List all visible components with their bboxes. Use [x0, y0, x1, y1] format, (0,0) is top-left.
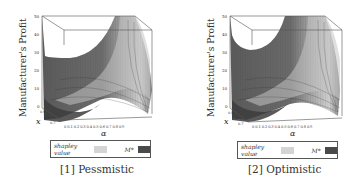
svg-text:50: 50: [222, 14, 228, 19]
svg-text:0.9: 0.9: [40, 110, 46, 114]
legend: shapley value M*: [237, 141, 338, 159]
svg-text:0.8: 0.8: [44, 116, 50, 120]
svg-text:10: 10: [222, 86, 228, 91]
panel-caption: [2] Optimistic: [248, 163, 321, 175]
svg-text:40: 40: [222, 32, 228, 37]
chart-panel-pessimistic: 50 40 30 20 10 0 0.9 0.8 0.7 x 0 0.1 0.2…: [0, 0, 178, 191]
legend-swatch-shapley: [281, 147, 293, 154]
svg-text:0 0.1 0.2 0.3 0.4 0.5 0.6 0.7: 0 0.1 0.2 0.3 0.4 0.5 0.6 0.7 0.8 0.9: [64, 125, 125, 129]
chart-panel-optimistic: 50 40 30 20 10 0 0.9 0.8 0.7 x 0 0.1 0.2…: [180, 0, 355, 191]
svg-text:α: α: [101, 129, 107, 138]
svg-text:0.9: 0.9: [228, 111, 234, 115]
svg-text:10: 10: [34, 86, 40, 91]
svg-text:α: α: [290, 129, 296, 138]
svg-text:0: 0: [225, 104, 228, 109]
legend-label-mstar: M*: [125, 146, 134, 153]
svg-text:0: 0: [37, 104, 40, 109]
svg-text:x: x: [224, 117, 229, 126]
svg-text:40: 40: [34, 32, 40, 37]
svg-text:x: x: [36, 117, 41, 126]
legend-label-shapley: shapley value: [54, 142, 90, 156]
svg-text:30: 30: [34, 50, 40, 55]
legend-swatch-mstar: [325, 147, 337, 154]
legend-swatch-mstar: [138, 146, 150, 153]
svg-text:20: 20: [34, 68, 40, 73]
panel-caption: [1] Pessmistic: [60, 163, 134, 175]
y-axis-label: Manufacturer's Profit: [206, 18, 216, 117]
svg-text:0.7: 0.7: [50, 121, 56, 125]
svg-text:30: 30: [222, 50, 228, 55]
legend: shapley value M*: [50, 140, 151, 158]
svg-text:0.7: 0.7: [238, 122, 244, 126]
y-axis-label: Manufacturer's Profit: [18, 18, 28, 117]
legend-swatch-shapley: [94, 146, 106, 153]
z-tick: 50: [34, 14, 40, 19]
legend-label-mstar: M*: [312, 147, 321, 154]
svg-text:0.8: 0.8: [232, 117, 238, 121]
svg-text:20: 20: [222, 68, 228, 73]
legend-label-shapley: shapley value: [241, 143, 277, 157]
svg-text:0 0.1 0.2 0.3 0.4 0.5 0.6 0.7: 0 0.1 0.2 0.3 0.4 0.5 0.6 0.7 0.8 0.9: [252, 125, 313, 129]
